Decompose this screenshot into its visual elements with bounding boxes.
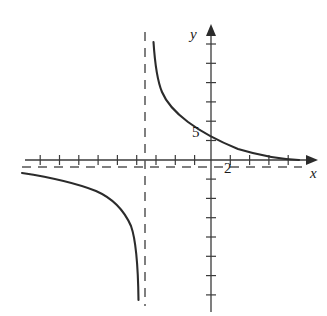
y-axis-label: y [190, 26, 197, 43]
plot-canvas [0, 0, 327, 316]
curve-lower-branch [22, 173, 139, 300]
y-tick-label-5: 5 [192, 124, 200, 141]
graph-figure: y x 5 2 [0, 0, 327, 316]
curve-upper-branch [154, 42, 300, 160]
y-axis-arrowhead [206, 24, 216, 36]
x-axis-label: x [310, 165, 317, 182]
x-axis-arrowhead [306, 155, 318, 165]
x-tick-label-2: 2 [224, 160, 232, 177]
